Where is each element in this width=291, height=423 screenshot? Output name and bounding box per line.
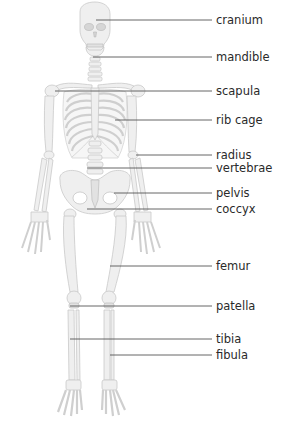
label-patella: patella: [70, 299, 255, 313]
label-fibula: fibula: [110, 348, 248, 362]
label-text: fibula: [216, 348, 248, 362]
label-text: rib cage: [216, 113, 263, 127]
label-text: patella: [216, 299, 255, 313]
right-leg: [102, 209, 126, 416]
label-text: radius: [216, 148, 252, 162]
label-text: cranium: [216, 13, 263, 27]
label-femur: femur: [110, 259, 251, 273]
label-cranium: cranium: [96, 13, 263, 27]
lumbar-spine: [87, 141, 103, 174]
label-radius: radius: [136, 148, 252, 162]
label-text: tibia: [216, 332, 241, 346]
label-rib-cage: rib cage: [115, 113, 263, 127]
label-text: femur: [216, 259, 251, 273]
label-mandible: mandible: [93, 50, 270, 64]
pelvis: [60, 170, 130, 214]
skull: [80, 2, 110, 56]
label-text: coccyx: [216, 202, 256, 216]
label-text: vertebrae: [216, 161, 272, 175]
rib-cage: [63, 88, 127, 158]
left-arm: [22, 96, 54, 254]
cervical-spine: [88, 57, 102, 81]
left-leg: [58, 209, 82, 416]
skeleton-diagram: cranium mandible scapula rib cage radius…: [0, 0, 291, 423]
label-text: pelvis: [216, 186, 250, 200]
label-tibia: tibia: [70, 332, 241, 346]
label-text: scapula: [216, 84, 260, 98]
label-text: mandible: [216, 50, 270, 64]
